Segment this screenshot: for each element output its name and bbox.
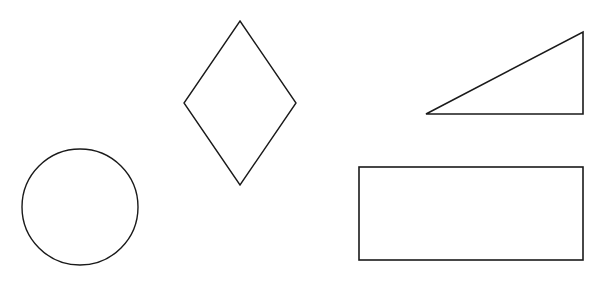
circle-shape	[22, 149, 138, 265]
diamond-shape	[184, 21, 296, 185]
triangle-shape	[426, 32, 583, 114]
rectangle-shape	[359, 167, 583, 260]
shapes-canvas	[0, 0, 604, 281]
